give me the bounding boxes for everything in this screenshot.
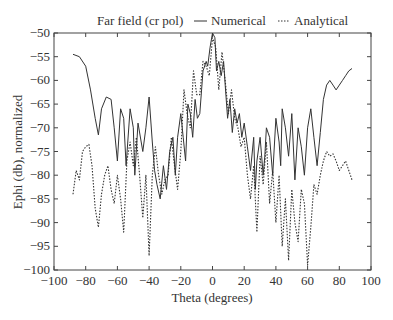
series-analytical-line: [73, 38, 352, 266]
y-tick-label: −65: [30, 96, 50, 111]
x-tick-label: 100: [361, 273, 381, 288]
legend-analytical-label: Analytical: [294, 13, 349, 28]
x-tick-label: −40: [139, 273, 159, 288]
series-numerical-line: [73, 33, 352, 199]
axis-ticks: [54, 33, 371, 270]
x-tick-label: −20: [171, 273, 191, 288]
x-tick-label: 40: [269, 273, 282, 288]
y-tick-label: −75: [30, 144, 50, 159]
y-tick-label: −85: [30, 191, 50, 206]
legend-title: Far field (cr pol): [97, 13, 183, 28]
y-tick-label: −95: [30, 238, 50, 253]
y-tick-label: −60: [30, 72, 50, 87]
x-tick-label: 80: [333, 273, 346, 288]
legend: Far field (cr pol) Numerical Analytical: [97, 13, 349, 28]
y-tick-label: −55: [30, 49, 50, 64]
x-tick-label: −80: [76, 273, 96, 288]
tick-labels: −100−80−60−40−20020406080100−50−55−60−65…: [23, 25, 381, 288]
y-tick-label: −80: [30, 167, 50, 182]
y-tick-label: −90: [30, 215, 50, 230]
y-tick-label: −50: [30, 25, 50, 40]
data-series: [73, 33, 352, 265]
x-tick-label: −60: [107, 273, 127, 288]
y-tick-label: −100: [23, 262, 50, 277]
y-tick-label: −70: [30, 120, 50, 135]
x-tick-label: 20: [238, 273, 251, 288]
legend-numerical-label: Numerical: [211, 13, 266, 28]
far-field-chart: Far field (cr pol) Numerical Analytical …: [0, 0, 393, 320]
x-tick-label: 60: [301, 273, 314, 288]
x-axis-label: Theta (degrees): [171, 290, 252, 305]
plot-area: [54, 33, 371, 270]
x-tick-label: 0: [209, 273, 216, 288]
y-axis-label: Ephi (db), normalized: [10, 94, 25, 209]
